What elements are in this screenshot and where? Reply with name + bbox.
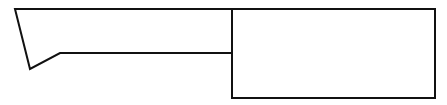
handle-shape [232,9,435,98]
diagram-svg [0,0,447,105]
knife-diagram [0,0,447,105]
blade-shape [15,9,232,69]
